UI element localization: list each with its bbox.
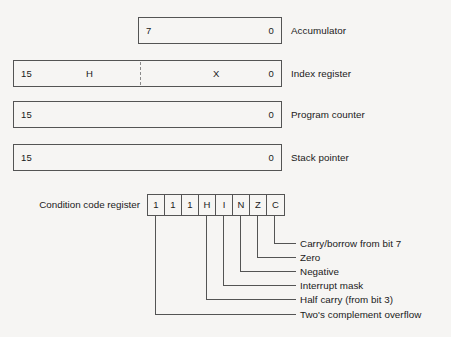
leader-line-negative [241, 216, 297, 272]
program-counter-lsb-label: 0 [269, 110, 274, 120]
register-name-program-counter: Program counter [291, 110, 365, 120]
register-box-program-counter: 15 0 [13, 101, 282, 128]
ccr-bit-cell-negative: N [233, 195, 250, 215]
register-diagram: 7 0 Accumulator 15 H X 0 Index register … [0, 0, 451, 337]
index-register-lsb-label: 0 [269, 69, 274, 79]
leader-line-half-carry [207, 216, 297, 300]
accumulator-lsb-label: 0 [269, 26, 274, 36]
register-box-condition-code-register: 1 1 1 H I N Z C [147, 194, 285, 216]
callout-label-overflow: Two's complement overflow [300, 310, 421, 320]
callout-label-half-carry: Half carry (from bit 3) [300, 295, 393, 305]
leader-line-zero [258, 216, 297, 258]
program-counter-msb-label: 15 [21, 110, 32, 120]
ccr-bit-cell-half-carry: H [199, 195, 216, 215]
stack-pointer-msb-label: 15 [21, 153, 32, 163]
callout-label-carry: Carry/borrow from bit 7 [300, 239, 401, 249]
ccr-bit-cell-7: 1 [148, 195, 165, 215]
register-name-index-register: Index register [291, 69, 351, 79]
callout-label-zero: Zero [300, 253, 320, 263]
leader-line-interrupt-mask [224, 216, 297, 286]
register-box-stack-pointer: 15 0 [13, 144, 282, 171]
stack-pointer-lsb-label: 0 [269, 153, 274, 163]
callout-label-negative: Negative [300, 267, 339, 277]
register-box-accumulator: 7 0 [138, 17, 282, 44]
ccr-bit-cell-6: 1 [165, 195, 182, 215]
leader-line-overflow [156, 216, 297, 315]
ccr-bit-cell-interrupt-mask: I [216, 195, 233, 215]
ccr-bit-cell-carry: C [267, 195, 284, 215]
leader-line-carry [275, 216, 297, 244]
register-name-stack-pointer: Stack pointer [291, 153, 349, 163]
register-box-index-register: 15 H X 0 [13, 60, 282, 87]
ccr-bit-cell-5: 1 [182, 195, 199, 215]
index-register-byte-divider [140, 62, 141, 85]
ccr-bit-cell-zero: Z [250, 195, 267, 215]
register-name-condition-code-register: Condition code register [22, 200, 140, 210]
index-register-low-byte-label: X [213, 69, 219, 79]
index-register-msb-label: 15 [21, 69, 32, 79]
register-name-accumulator: Accumulator [291, 26, 346, 36]
callout-label-interrupt-mask: Interrupt mask [300, 281, 363, 291]
index-register-high-byte-label: H [86, 69, 93, 79]
accumulator-msb-label: 7 [146, 26, 151, 36]
